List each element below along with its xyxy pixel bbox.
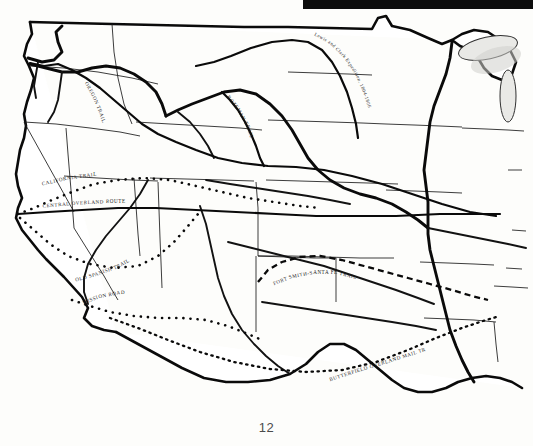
state-line-id-mt-w xyxy=(112,24,132,124)
river-missouri xyxy=(166,90,428,228)
trail-lewis-and-clark[interactable] xyxy=(196,40,358,138)
river-ohio xyxy=(428,228,526,248)
state-line-co-ut xyxy=(134,178,140,256)
great-lakes-group xyxy=(456,31,519,122)
trail-label-fort-smith-santa-fe: FORT SMITH-SANTA FE TRAIL xyxy=(272,269,358,286)
state-line-ms-al xyxy=(494,286,528,288)
state-line-la-ms-vert xyxy=(494,322,498,362)
state-line-ia-mo xyxy=(386,190,462,193)
mexico-border-and-gulf xyxy=(116,332,522,392)
state-line-tn-ms xyxy=(506,268,522,269)
map-svg: Lewis and Clark Expedition, 1804-1806 OR… xyxy=(0,0,533,415)
state-line-ky-tn xyxy=(512,230,526,231)
river-red xyxy=(262,302,436,330)
state-line-mn-ia xyxy=(386,124,462,127)
state-line-co-ks xyxy=(256,182,258,256)
state-line-mt-wy xyxy=(136,122,262,130)
trail-label-bozeman: BOZEMAN TRAIL xyxy=(226,94,255,139)
state-line-il-wi xyxy=(462,128,524,131)
trail-label-oregon: OREGON TRAIL xyxy=(84,81,108,124)
lake-michigan xyxy=(500,70,516,122)
state-line-wy-co xyxy=(150,178,254,181)
map-figure: Lewis and Clark Expedition, 1804-1806 OR… xyxy=(0,0,533,415)
state-line-mo-ar xyxy=(420,262,494,265)
trail-label-lewis-and-clark: Lewis and Clark Expedition, 1804-1806 xyxy=(314,32,373,109)
map-page: Lewis and Clark Expedition, 1804-1806 OR… xyxy=(0,0,533,446)
canada-border xyxy=(30,16,452,44)
state-line-az-nm xyxy=(158,182,162,288)
river-platte xyxy=(206,180,350,204)
page-number: 12 xyxy=(0,420,533,435)
trail-bozeman[interactable] xyxy=(222,92,264,166)
